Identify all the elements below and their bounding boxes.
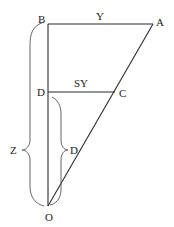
point-label-D: D: [37, 86, 45, 98]
segment-label-Z: Z: [10, 144, 17, 156]
segment-AO: [48, 24, 153, 206]
similar-triangles-diagram: B A D C O Y SY Z D: [0, 0, 174, 227]
point-label-C: C: [119, 87, 126, 99]
point-label-A: A: [156, 16, 164, 28]
segment-label-D: D: [70, 144, 78, 156]
point-label-B: B: [38, 13, 45, 25]
brace-Z: [22, 22, 44, 206]
point-label-O: O: [45, 211, 53, 223]
segment-label-SY: SY: [74, 77, 88, 89]
segment-label-Y: Y: [96, 10, 104, 22]
brace-D: [50, 97, 68, 205]
